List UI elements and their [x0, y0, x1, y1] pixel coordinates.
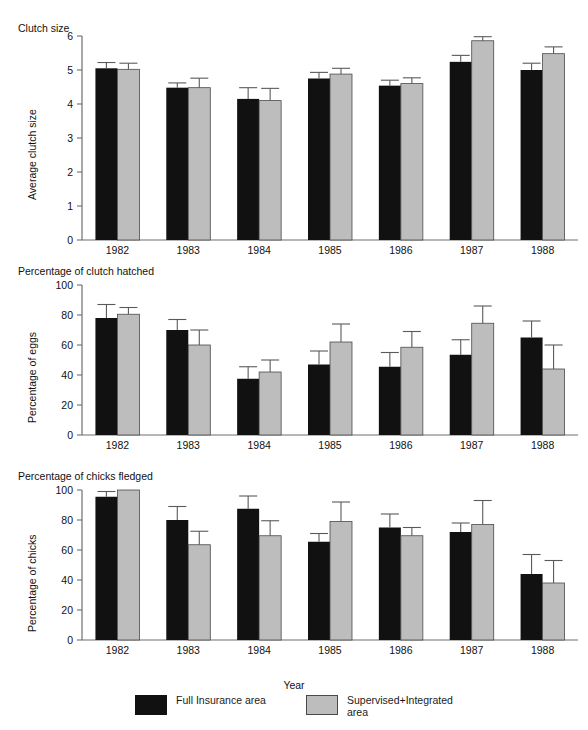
svg-text:20: 20: [61, 399, 73, 411]
panel-1-svg: 01234561982198319841985198619871988: [0, 0, 588, 258]
legend-swatch-dark-icon: [135, 695, 167, 715]
svg-text:2: 2: [67, 166, 73, 178]
x-axis-title: Year: [0, 679, 588, 691]
svg-text:100: 100: [55, 484, 73, 496]
svg-text:5: 5: [67, 64, 73, 76]
x-tick-label: 1987: [460, 644, 484, 656]
svg-text:80: 80: [61, 514, 73, 526]
svg-text:40: 40: [61, 369, 73, 381]
x-tick-label: 1985: [318, 644, 342, 656]
figure-root: Clutch size Average clutch size 01234561…: [0, 0, 588, 730]
panel-clutch-hatched: Percentage of clutch hatched Percentage …: [0, 255, 588, 460]
x-tick-label: 1988: [531, 644, 555, 656]
svg-text:60: 60: [61, 544, 73, 556]
x-tick-label: 1983: [177, 439, 201, 451]
svg-text:40: 40: [61, 574, 73, 586]
panel-2-plot: 0204060801001982198319841985198619871988: [0, 255, 588, 460]
legend-item-supervised-integrated: Supervised+Integrated area: [306, 694, 453, 718]
svg-text:100: 100: [55, 279, 73, 291]
x-tick-label: 1982: [106, 439, 130, 451]
legend-item-full-insurance: Full Insurance area: [135, 694, 266, 715]
svg-text:1: 1: [67, 200, 73, 212]
svg-text:4: 4: [67, 98, 73, 110]
svg-text:80: 80: [61, 309, 73, 321]
svg-text:60: 60: [61, 339, 73, 351]
panel-clutch-size: Clutch size Average clutch size 01234561…: [0, 0, 588, 255]
svg-text:0: 0: [67, 429, 73, 441]
legend-label-full-insurance: Full Insurance area: [176, 694, 266, 706]
svg-text:20: 20: [61, 604, 73, 616]
x-tick-label: 1987: [460, 439, 484, 451]
panel-3-svg: 0204060801001982198319841985198619871988: [0, 460, 588, 665]
x-tick-label: 1984: [247, 439, 271, 451]
svg-text:0: 0: [67, 234, 73, 246]
svg-text:3: 3: [67, 132, 73, 144]
x-tick-label: 1983: [177, 644, 201, 656]
figure-legend: Full Insurance area Supervised+Integrate…: [0, 694, 588, 718]
legend-swatch-light-icon: [306, 695, 338, 715]
panel-2-svg: 0204060801001982198319841985198619871988: [0, 255, 588, 460]
x-tick-label: 1984: [247, 644, 271, 656]
x-tick-label: 1986: [389, 439, 413, 451]
svg-text:0: 0: [67, 634, 73, 646]
x-tick-label: 1988: [531, 439, 555, 451]
legend-label-supervised-integrated: Supervised+Integrated area: [347, 694, 453, 718]
x-tick-label: 1982: [106, 644, 130, 656]
panel-3-plot: 0204060801001982198319841985198619871988: [0, 460, 588, 665]
x-tick-label: 1986: [389, 644, 413, 656]
panel-chicks-fledged: Percentage of chicks fledged Percentage …: [0, 460, 588, 675]
x-tick-label: 1985: [318, 439, 342, 451]
svg-text:6: 6: [67, 30, 73, 42]
panel-1-plot: 01234561982198319841985198619871988: [0, 0, 588, 258]
